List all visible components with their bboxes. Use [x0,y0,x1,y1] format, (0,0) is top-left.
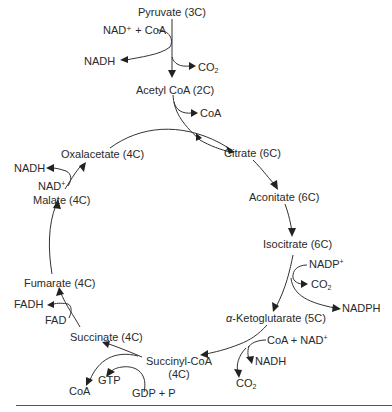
gdp-p-input-label: GDP + P [132,387,176,400]
nadp-input-label: NADP+ [309,258,344,271]
succinyl-coa-label: Succinyl-CoA(4C) [143,355,215,381]
succinate-label: Succinate (4C) [70,331,143,344]
coa-nad-input-label: CoA + NAD+ [267,334,328,347]
malate-nadh-output-label: NADH [14,162,45,175]
nad-coa-input-label: NAD⁺ + CoA [103,24,166,37]
citrate-label: Citrate (6C) [224,147,281,160]
fad-input-label: FAD [45,314,66,327]
krebs-cycle-diagram: Pyruvate (3C) NAD⁺ + CoA NADH CO2 Acetyl… [0,0,392,412]
fumarate-label: Fumarate (4C) [24,277,96,290]
aconitate-label: Aconitate (6C) [249,191,319,204]
bottom-divider [16,405,392,406]
isocitrate-label: Isocitrate (6C) [263,238,332,251]
coa-release-label: CoA [69,385,90,398]
alpha-ketoglutarate-label: α-Ketoglutarate (5C) [226,312,326,325]
nadh-output-label: NADH [84,55,115,68]
co2-output-label: CO2 [198,61,218,74]
oxalacetate-label: Oxalacetate (4C) [61,148,144,161]
pyruvate-label: Pyruvate (3C) [138,6,206,19]
gtp-output-label: GTP [98,374,121,387]
malate-nad-input-label: NAD+ [38,180,65,193]
acetyl-coa-label: Acetyl CoA (2C) [136,84,214,97]
fadh-output-label: FADH [14,298,43,311]
coa-output-label: CoA [200,107,221,120]
akg-nadh-output-label: NADH [255,355,286,368]
isocitrate-co2-label: CO2 [311,278,331,291]
nadph-output-label: NADPH [342,302,381,315]
malate-label: Malate (4C) [33,194,90,207]
akg-co2-output-label: CO2 [236,377,256,390]
